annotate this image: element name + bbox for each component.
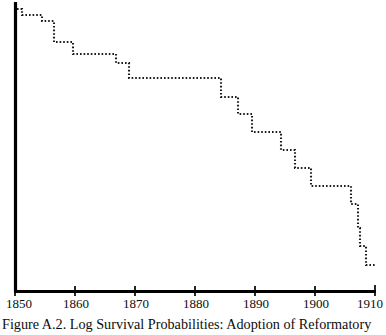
plot-background bbox=[0, 0, 386, 296]
x-tick-label-1880: 1880 bbox=[183, 296, 209, 311]
figure-container: 1850 1860 1870 1880 1890 1900 1910 Figur… bbox=[0, 0, 386, 335]
x-tick-label-1890: 1890 bbox=[243, 296, 269, 311]
x-tick-label-1910: 1910 bbox=[357, 296, 383, 311]
x-tick-label-1860: 1860 bbox=[63, 296, 89, 311]
x-tick-label-1900: 1900 bbox=[303, 296, 329, 311]
survival-plot bbox=[0, 0, 386, 296]
x-axis-tick-labels: 1850 1860 1870 1880 1890 1900 1910 bbox=[0, 296, 386, 316]
x-tick-label-1870: 1870 bbox=[123, 296, 149, 311]
figure-caption: Figure A.2. Log Survival Probabilities: … bbox=[2, 316, 386, 333]
x-tick-label-1850: 1850 bbox=[6, 296, 32, 311]
